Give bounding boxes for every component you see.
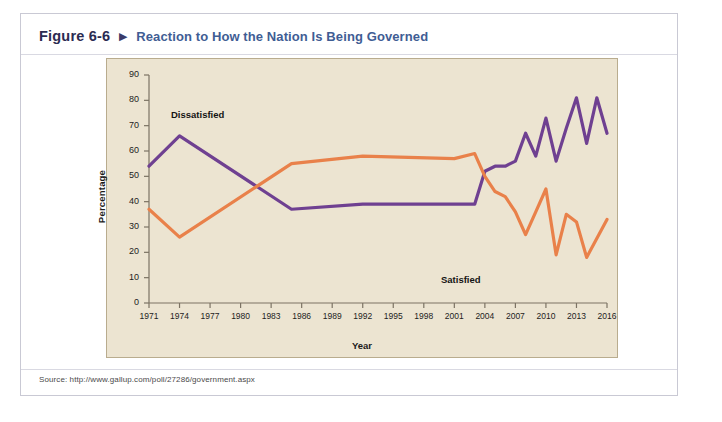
source-note: Source: http://www.gallup.com/poll/27286… bbox=[39, 375, 255, 384]
x-tick-label: 2013 bbox=[559, 311, 593, 321]
chart-plot-panel: Percentage Year 0102030405060708090 1971… bbox=[106, 58, 618, 358]
y-tick-label: 30 bbox=[113, 221, 139, 231]
x-tick-label: 1983 bbox=[254, 311, 288, 321]
y-tick-label: 90 bbox=[113, 69, 139, 79]
y-tick-label: 10 bbox=[113, 272, 139, 282]
y-axis-title: Percentage bbox=[96, 137, 107, 257]
y-tick-label: 70 bbox=[113, 120, 139, 130]
source-divider bbox=[21, 369, 677, 370]
x-tick-label: 1977 bbox=[193, 311, 227, 321]
x-tick-label: 2001 bbox=[437, 311, 471, 321]
x-tick-label: 1974 bbox=[163, 311, 197, 321]
x-tick-label: 1980 bbox=[224, 311, 258, 321]
x-tick-label: 2010 bbox=[529, 311, 563, 321]
y-tick-label: 80 bbox=[113, 94, 139, 104]
series-label-satisfied: Satisfied bbox=[441, 274, 481, 285]
y-tick-label: 60 bbox=[113, 145, 139, 155]
x-tick-label: 1986 bbox=[285, 311, 319, 321]
series-label-dissatisfied: Dissatisfied bbox=[171, 109, 224, 120]
y-tick-label: 0 bbox=[113, 297, 139, 307]
x-tick-label: 1989 bbox=[315, 311, 349, 321]
figure-header: Figure 6-6 ▶ Reaction to How the Nation … bbox=[39, 28, 428, 44]
y-tick-label: 20 bbox=[113, 246, 139, 256]
y-tick-label: 50 bbox=[113, 170, 139, 180]
x-tick-label: 1992 bbox=[346, 311, 380, 321]
triangle-right-icon: ▶ bbox=[119, 31, 127, 42]
x-tick-label: 1995 bbox=[376, 311, 410, 321]
figure-number: Figure 6-6 bbox=[39, 28, 110, 44]
header-divider bbox=[21, 54, 677, 55]
y-tick-label: 40 bbox=[113, 196, 139, 206]
figure-title: Reaction to How the Nation Is Being Gove… bbox=[136, 29, 428, 44]
x-tick-label: 1971 bbox=[132, 311, 166, 321]
figure-card: Figure 6-6 ▶ Reaction to How the Nation … bbox=[20, 13, 678, 396]
x-axis-title: Year bbox=[107, 340, 617, 351]
x-tick-label: 2016 bbox=[590, 311, 624, 321]
x-tick-label: 2004 bbox=[468, 311, 502, 321]
x-tick-label: 2007 bbox=[498, 311, 532, 321]
x-tick-label: 1998 bbox=[407, 311, 441, 321]
